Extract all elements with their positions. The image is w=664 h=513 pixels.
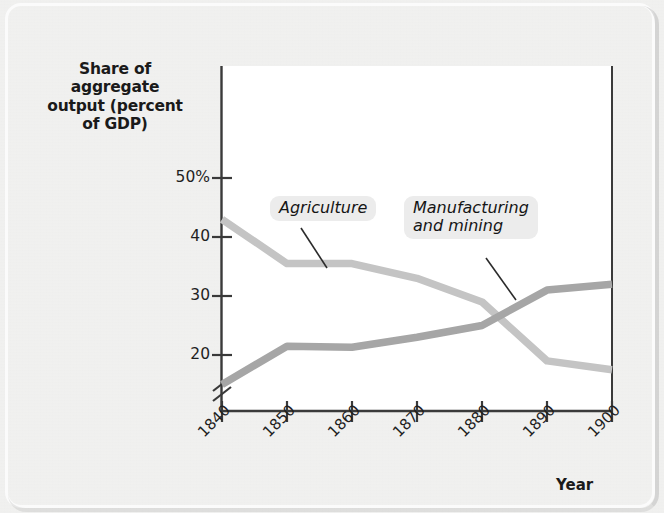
series-callout-manufacturing-line-2: and mining bbox=[413, 217, 529, 235]
x-tick-label-1840: 1840 bbox=[194, 401, 234, 441]
series-callout-agriculture-line-1: Agriculture bbox=[279, 199, 367, 217]
x-tick-label-1870: 1870 bbox=[389, 401, 429, 441]
x-axis-tick-labels: 1840 1850 1860 1870 1880 1890 1900 bbox=[0, 0, 664, 513]
x-tick-label-1850: 1850 bbox=[259, 401, 299, 441]
figure-root: Share of aggregate output (percent of GD… bbox=[0, 0, 664, 513]
series-callout-manufacturing-line-1: Manufacturing bbox=[413, 199, 529, 217]
series-callout-agriculture: Agriculture bbox=[270, 196, 376, 221]
x-axis-title: Year bbox=[556, 476, 593, 494]
x-tick-label-1860: 1860 bbox=[324, 401, 364, 441]
x-tick-label-1890: 1890 bbox=[519, 401, 559, 441]
x-tick-label-1900: 1900 bbox=[584, 401, 624, 441]
series-callout-manufacturing-and-mining: Manufacturing and mining bbox=[404, 196, 538, 239]
x-tick-label-1880: 1880 bbox=[454, 401, 494, 441]
line-chart: Share of aggregate output (percent of GD… bbox=[0, 0, 664, 513]
